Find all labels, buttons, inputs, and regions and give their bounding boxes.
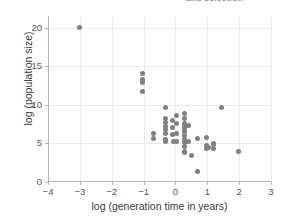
scatter-point bbox=[204, 135, 209, 140]
gridline-horizontal bbox=[48, 66, 271, 67]
y-tick-label: 0 bbox=[18, 176, 42, 187]
scatter-point bbox=[182, 111, 187, 116]
scatter-point bbox=[219, 105, 224, 110]
scatter-point bbox=[174, 113, 179, 118]
x-tick-mark bbox=[48, 182, 49, 185]
scatter-point bbox=[174, 121, 179, 126]
gridline-vertical bbox=[80, 16, 81, 182]
scatter-point bbox=[236, 149, 241, 154]
gridline-vertical bbox=[144, 16, 145, 182]
scatter-point bbox=[163, 139, 168, 144]
scatter-point bbox=[163, 131, 168, 136]
x-tick-mark bbox=[271, 182, 272, 185]
x-tick-mark bbox=[207, 182, 208, 185]
scatter-point bbox=[186, 123, 191, 128]
scatter-point bbox=[140, 71, 145, 76]
scatter-point bbox=[211, 146, 216, 151]
figure-container: and selection −4−3−2−10123 05101520 log … bbox=[0, 0, 285, 222]
x-tick-label: −3 bbox=[68, 186, 92, 197]
y-tick-mark bbox=[45, 182, 48, 183]
y-tick-mark bbox=[45, 143, 48, 144]
gridline-horizontal bbox=[48, 105, 271, 106]
x-tick-label: −1 bbox=[132, 186, 156, 197]
scatter-point bbox=[189, 153, 194, 158]
scatter-point bbox=[151, 136, 156, 141]
y-axis-line bbox=[48, 16, 49, 182]
x-tick-mark bbox=[175, 182, 176, 185]
x-tick-label: −4 bbox=[36, 186, 60, 197]
scatter-point bbox=[163, 105, 168, 110]
clipped-caption-fragment: and selection bbox=[186, 0, 285, 2]
x-tick-label: 3 bbox=[259, 186, 283, 197]
gridline-horizontal bbox=[48, 143, 271, 144]
gridline-vertical bbox=[271, 16, 272, 182]
scatter-point bbox=[174, 131, 179, 136]
plot-area: −4−3−2−10123 05101520 bbox=[48, 16, 271, 182]
x-tick-mark bbox=[239, 182, 240, 185]
x-tick-mark bbox=[144, 182, 145, 185]
gridline-vertical bbox=[207, 16, 208, 182]
scatter-point bbox=[182, 150, 187, 155]
y-tick-mark bbox=[45, 66, 48, 67]
scatter-point bbox=[140, 89, 145, 94]
gridline-vertical bbox=[112, 16, 113, 182]
x-tick-label: −2 bbox=[100, 186, 124, 197]
gridline-vertical bbox=[239, 16, 240, 182]
x-axis-line bbox=[48, 181, 271, 182]
x-tick-label: 1 bbox=[195, 186, 219, 197]
scatter-point bbox=[77, 25, 82, 30]
scatter-point bbox=[174, 139, 179, 144]
y-tick-mark bbox=[45, 105, 48, 106]
scatter-point bbox=[195, 136, 200, 141]
x-tick-mark bbox=[80, 182, 81, 185]
x-tick-label: 2 bbox=[227, 186, 251, 197]
y-axis-label: log (population size) bbox=[22, 0, 35, 159]
y-tick-mark bbox=[45, 28, 48, 29]
x-axis-label: log (generation time in years) bbox=[48, 200, 271, 213]
gridline-vertical bbox=[175, 16, 176, 182]
x-tick-mark bbox=[112, 182, 113, 185]
scatter-point bbox=[151, 131, 156, 136]
x-tick-label: 0 bbox=[163, 186, 187, 197]
scatter-point bbox=[195, 169, 200, 174]
